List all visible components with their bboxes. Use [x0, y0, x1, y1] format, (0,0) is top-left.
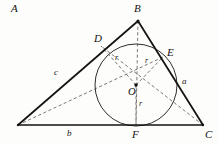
- vertex-label-a: A: [11, 3, 18, 14]
- radius-oe: [136, 57, 163, 85]
- side-label-c: c: [54, 68, 58, 77]
- vertex-point-b: [137, 20, 140, 23]
- radius-label-oe: r: [145, 57, 148, 65]
- tangent-label-e: E: [167, 47, 174, 58]
- radius-od: [101, 46, 136, 85]
- vertex-points: [17, 20, 204, 127]
- radius-label-of: r: [139, 100, 142, 108]
- side-label-a: a: [182, 77, 187, 86]
- vertex-point-a: [17, 124, 19, 126]
- side-bc: [138, 21, 203, 125]
- radius-label-od: r: [115, 54, 118, 62]
- bisector-ao: [18, 57, 163, 125]
- tangent-label-d: D: [94, 33, 102, 44]
- geometry-figure: A B C D E F O c a b r r r: [0, 0, 219, 144]
- vertex-label-b: B: [134, 3, 141, 14]
- side-ab: [18, 21, 138, 125]
- incenter-label: O: [128, 87, 136, 98]
- vertex-label-c: C: [205, 129, 212, 140]
- vertex-point-c: [202, 124, 204, 126]
- tangent-label-f: F: [132, 129, 139, 140]
- geometry-canvas: [0, 0, 219, 144]
- side-label-b: b: [67, 129, 72, 138]
